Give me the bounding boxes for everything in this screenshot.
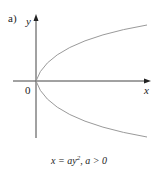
equation-caption: x = ay2, a > 0	[0, 154, 158, 166]
origin-label: 0	[25, 85, 31, 96]
y-axis-arrow-icon	[34, 14, 39, 21]
equation-condition: , a > 0	[80, 155, 107, 166]
y-axis-label: y	[26, 16, 31, 27]
equation-main: x = ay	[51, 155, 77, 166]
panel-label: a)	[8, 13, 17, 24]
x-axis-arrow-icon	[144, 79, 151, 84]
x-axis-label: x	[144, 85, 149, 96]
graph-canvas	[0, 0, 158, 169]
parabola-figure: a) y 0 x x = ay2, a > 0	[0, 0, 158, 169]
